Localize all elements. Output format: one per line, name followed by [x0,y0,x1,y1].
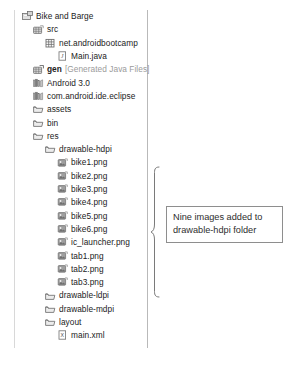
tree-row-suffix: [Generated Java Files] [65,63,150,76]
tree-row-label: bike2.png [71,170,107,183]
xml-file-icon: X [57,330,68,340]
tree-row-label: src [47,23,58,36]
image-file-icon [57,171,68,181]
source-folder-icon [33,25,44,35]
folder-icon [33,131,44,141]
tree-row-label: gen [47,63,62,76]
tree-row-label: res [47,130,59,143]
tree-row[interactable]: JMain.java [15,50,175,63]
tree-row-label: Android 3.0 [47,77,90,90]
package-icon [45,38,56,48]
tree-row-label: drawable-hdpi [59,143,112,156]
tree-row-label: drawable-ldpi [59,289,109,302]
tree-row-label: Main.java [71,50,107,63]
curly-brace-icon [150,166,162,298]
folder-icon [33,118,44,128]
tree-row[interactable]: layout [15,316,175,329]
tree-row-label: drawable-mdpi [59,303,114,316]
package-explorer-panel: Bike and Bargesrcnet.androidbootcampJMai… [14,10,148,348]
image-file-icon [57,251,68,261]
image-file-icon [57,197,68,207]
tree-row[interactable]: bin [15,116,175,129]
image-file-icon [57,237,68,247]
tree-row[interactable]: Xmain.xml [15,329,175,342]
tree-row[interactable]: src [15,23,175,36]
tree-row[interactable]: res [15,130,175,143]
image-file-icon [57,264,68,274]
tree-row-label: ic_launcher.png [71,236,130,249]
tree-row[interactable]: drawable-mdpi [15,303,175,316]
project-icon [22,11,33,21]
image-file-icon [57,211,68,221]
image-file-icon [57,224,68,234]
folder-icon [45,144,56,154]
tree-row-label: bike3.png [71,183,107,196]
annotation-callout: Nine images added to drawable-hdpi folde… [166,206,283,243]
tree-row-label: tab3.png [71,276,104,289]
java-file-icon: J [57,51,68,61]
tree-row-label: assets [47,103,71,116]
library-icon [33,91,44,101]
tree-row[interactable]: assets [15,103,175,116]
tree-row[interactable]: Android 3.0 [15,76,175,89]
tree-row[interactable]: net.androidbootcamp [15,37,175,50]
tree-row[interactable]: Bike and Barge [15,10,175,23]
folder-icon [45,317,56,327]
image-file-icon [57,277,68,287]
callout-line-1: Nine images added to [173,211,282,224]
folder-icon [33,104,44,114]
image-file-icon [57,184,68,194]
tree-row-label: bin [47,117,58,130]
svg-text:X: X [61,332,65,338]
folder-icon [45,291,56,301]
tree-row[interactable]: com.android.ide.eclipse [15,90,175,103]
generated-folder-icon [33,65,44,75]
callout-line-2: drawable-hdpi folder [173,224,282,237]
tree-row-label: bike6.png [71,223,107,236]
tree-row-label: net.androidbootcamp [59,37,138,50]
tree-row-label: tab2.png [71,263,104,276]
image-file-icon [57,158,68,168]
tree-row-label: tab1.png [71,250,104,263]
tree-row-label: bike4.png [71,196,107,209]
tree-row-label: bike5.png [71,210,107,223]
library-icon [33,78,44,88]
tree-row[interactable]: gen[Generated Java Files] [15,63,175,76]
tree-row-label: main.xml [71,329,105,342]
folder-icon [45,304,56,314]
tree-row-label: layout [59,316,81,329]
screenshot-canvas: Bike and Bargesrcnet.androidbootcampJMai… [0,0,291,370]
tree-row-label: com.android.ide.eclipse [47,90,135,103]
tree-row-label: bike1.png [71,156,107,169]
tree-row[interactable]: drawable-hdpi [15,143,175,156]
tree-row-label: Bike and Barge [36,10,93,23]
